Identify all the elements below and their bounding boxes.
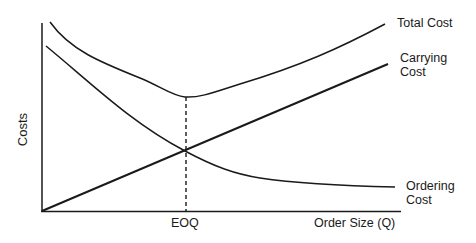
x-axis-label: Order Size (Q) (314, 216, 395, 230)
ordering-cost-label-line1: Ordering (406, 179, 455, 193)
eoq-chart (0, 0, 476, 243)
ordering-cost-label-line2: Cost (406, 193, 432, 207)
eoq-tick-label: EOQ (171, 216, 199, 230)
carrying-cost-label-line1: Carrying (400, 51, 447, 65)
carrying-cost-label-line2: Cost (400, 65, 426, 79)
y-axis-label: Costs (15, 110, 30, 150)
ordering-cost-curve (46, 46, 395, 187)
total-cost-label: Total Cost (397, 16, 453, 30)
